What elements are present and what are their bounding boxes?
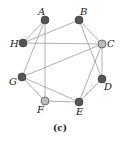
node-B [75,16,83,24]
node-G [18,73,26,81]
node-label-F: F [36,104,45,115]
edge-A-G [22,20,45,77]
edge-H-C [23,43,102,44]
node-label-C: C [107,38,115,49]
node-label-A: A [37,6,45,17]
node-label-D: D [103,81,112,92]
edge-D-E [79,79,102,102]
edge-C-E [79,44,102,102]
edge-B-C [79,20,102,44]
node-C [98,40,106,48]
edge-H-B [23,20,79,43]
graph-edges [22,20,102,102]
edge-C-G [22,44,102,77]
edge-B-D [79,20,102,79]
node-label-H: H [9,38,19,49]
node-E [75,98,83,106]
figure-caption: (c) [53,123,67,133]
node-label-B: B [79,6,87,17]
edge-G-F [22,77,45,101]
graph-diagram: ABHCGDFE (c) [0,0,120,141]
node-A [41,16,49,24]
edge-F-E [45,101,79,102]
edge-G-E [22,77,79,102]
node-label-E: E [75,106,84,117]
edge-A-H [23,20,45,43]
node-label-G: G [9,76,17,87]
node-H [19,39,27,47]
graph-nodes: ABHCGDFE [9,6,115,117]
